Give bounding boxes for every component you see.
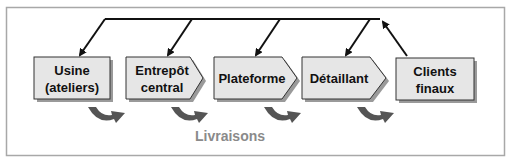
node-plateforme-label: Plateforme — [218, 71, 285, 86]
node-clients-line2: finaux — [416, 81, 455, 96]
node-usine-line1: Usine — [54, 63, 89, 78]
node-clients: Clients finaux — [396, 58, 474, 100]
node-entrepot-line2: central — [141, 80, 184, 95]
supply-chain-diagram: Usine (ateliers) Entrepôt central Platef… — [0, 0, 511, 161]
livraisons-label: Livraisons — [195, 128, 265, 144]
node-detaillant: Détaillant — [302, 57, 386, 99]
node-usine: Usine (ateliers) — [34, 57, 110, 99]
node-plateforme: Plateforme — [214, 57, 297, 99]
node-entrepot: Entrepôt central — [126, 57, 203, 99]
node-entrepot-line1: Entrepôt — [135, 63, 189, 78]
node-detaillant-label: Détaillant — [310, 71, 369, 86]
node-usine-line2: (ateliers) — [45, 80, 99, 95]
node-clients-line1: Clients — [413, 64, 456, 79]
